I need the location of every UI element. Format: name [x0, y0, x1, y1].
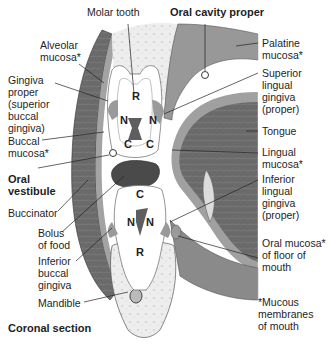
label-mandible: Mandible: [38, 297, 81, 309]
lower-crown-marker: C: [136, 188, 144, 200]
upper-crown-left-marker: C: [124, 138, 132, 150]
label-oral-vestibule: Oral vestibule: [8, 173, 56, 197]
label-palatine-mucosa: Palatine mucosa*: [262, 37, 303, 61]
label-inferior-lingual-gingiva: Inferior lingual gingiva (proper): [262, 173, 299, 221]
label-mucous-membranes-note: *Mucous membranes of mouth: [258, 296, 313, 332]
coronal-section-diagram: R N N C C C N N R Molar tooth Oral cavit…: [0, 0, 330, 347]
mandibular-canal: [130, 289, 142, 303]
label-buccal-mucosa: Buccal mucosa*: [8, 135, 49, 159]
label-buccinator: Buccinator: [8, 207, 58, 219]
upper-neck-left-marker: N: [120, 114, 128, 126]
lower-root-marker: R: [136, 246, 144, 258]
upper-neck-right-marker: N: [149, 114, 157, 126]
oral-vestibule-marker: [110, 150, 117, 157]
label-lingual-mucosa: Lingual mucosa*: [262, 146, 303, 170]
diagram-title: Coronal section: [8, 322, 91, 334]
upper-molar: [108, 66, 165, 158]
label-oral-mucosa-floor: Oral mucosa* of floor of mouth: [262, 237, 326, 273]
label-gingiva-proper: Gingiva proper (superior buccal gingiva): [8, 74, 49, 134]
label-tongue: Tongue: [262, 125, 296, 137]
label-inferior-buccal-gingiva: Inferior buccal gingiva: [38, 255, 71, 291]
label-superior-lingual-gingiva: Superior lingual gingiva (proper): [262, 67, 302, 115]
lower-neck-right-marker: N: [146, 216, 154, 228]
lower-neck-left-marker: N: [127, 216, 135, 228]
label-alveolar-mucosa: Alveolar mucosa*: [40, 39, 81, 63]
label-oral-cavity-proper: Oral cavity proper: [170, 6, 264, 18]
label-molar-tooth: Molar tooth: [87, 6, 140, 18]
upper-root-marker: R: [132, 90, 140, 102]
bolus-of-food: [112, 161, 160, 188]
label-bolus-of-food: Bolus of food: [38, 227, 70, 251]
oral-cavity-proper-marker: [202, 72, 209, 79]
upper-crown-right-marker: C: [146, 138, 154, 150]
